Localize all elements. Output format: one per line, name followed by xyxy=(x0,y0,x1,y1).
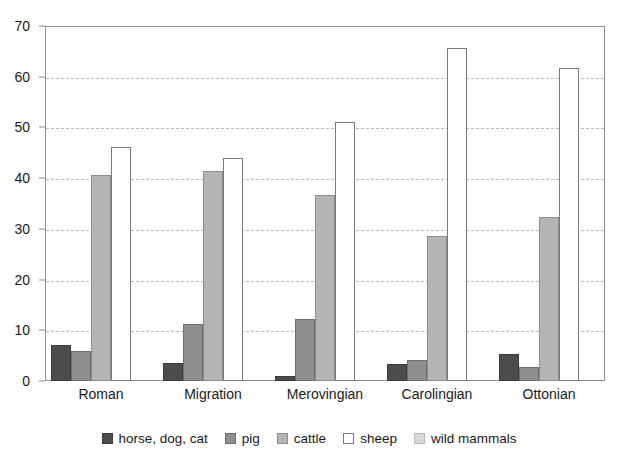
y-axis: 010203040506070 xyxy=(0,0,40,458)
bar-horse-carolingian xyxy=(387,364,407,381)
bar-pig-ottonian xyxy=(519,367,539,381)
y-tick-label: 10 xyxy=(14,322,30,338)
legend-item-wild: wild mammals xyxy=(414,431,517,446)
y-tick-label: 20 xyxy=(14,272,30,288)
legend-label: wild mammals xyxy=(431,431,517,446)
bar-cattle-merovingian xyxy=(315,195,335,381)
bar-cattle-carolingian xyxy=(427,236,447,381)
bar-group xyxy=(51,26,151,381)
bar-group xyxy=(387,26,487,381)
bar-group xyxy=(275,26,375,381)
bar-sheep-ottonian xyxy=(559,68,579,381)
y-tick-label: 60 xyxy=(14,69,30,85)
bar-chart: 010203040506070 RomanMigrationMerovingia… xyxy=(0,0,618,458)
legend-label: cattle xyxy=(294,431,326,446)
bar-pig-roman xyxy=(71,351,91,381)
x-tick-label-ottonian: Ottonian xyxy=(523,386,576,402)
legend-item-horse: horse, dog, cat xyxy=(102,431,208,446)
y-tick-label: 70 xyxy=(14,18,30,34)
bar-horse-merovingian xyxy=(275,376,295,381)
legend-label: horse, dog, cat xyxy=(119,431,208,446)
legend-item-pig: pig xyxy=(225,431,260,446)
legend-swatch-horse-icon xyxy=(102,433,113,444)
legend-swatch-sheep-icon xyxy=(343,433,354,444)
bar-horse-roman xyxy=(51,345,71,382)
x-tick-label-roman: Roman xyxy=(78,386,123,402)
bars-layer xyxy=(45,26,605,381)
bar-pig-migration xyxy=(183,324,203,381)
legend-label: pig xyxy=(242,431,260,446)
bar-group xyxy=(163,26,263,381)
y-tick-label: 40 xyxy=(14,170,30,186)
bar-horse-ottonian xyxy=(499,354,519,381)
y-tick-label: 30 xyxy=(14,221,30,237)
legend: horse, dog, catpigcattlesheepwild mammal… xyxy=(0,426,618,450)
legend-label: sheep xyxy=(360,431,397,446)
bar-sheep-roman xyxy=(111,147,131,381)
legend-item-cattle: cattle xyxy=(277,431,326,446)
bar-sheep-carolingian xyxy=(447,48,467,381)
bar-horse-migration xyxy=(163,363,183,381)
bar-pig-carolingian xyxy=(407,360,427,381)
bar-cattle-migration xyxy=(203,171,223,381)
x-tick-label-migration: Migration xyxy=(184,386,242,402)
legend-swatch-wild-icon xyxy=(414,433,425,444)
bar-pig-merovingian xyxy=(295,319,315,381)
legend-swatch-pig-icon xyxy=(225,433,236,444)
y-tick-label: 0 xyxy=(22,373,30,389)
x-tick-label-merovingian: Merovingian xyxy=(287,386,363,402)
legend-swatch-cattle-icon xyxy=(277,433,288,444)
bar-sheep-merovingian xyxy=(335,122,355,381)
legend-item-sheep: sheep xyxy=(343,431,397,446)
bar-cattle-roman xyxy=(91,175,111,381)
y-tick-label: 50 xyxy=(14,119,30,135)
bar-group xyxy=(499,26,599,381)
bar-cattle-ottonian xyxy=(539,217,559,381)
x-tick-label-carolingian: Carolingian xyxy=(402,386,473,402)
x-axis: RomanMigrationMerovingianCarolingianOtto… xyxy=(45,386,605,410)
bar-sheep-migration xyxy=(223,158,243,381)
